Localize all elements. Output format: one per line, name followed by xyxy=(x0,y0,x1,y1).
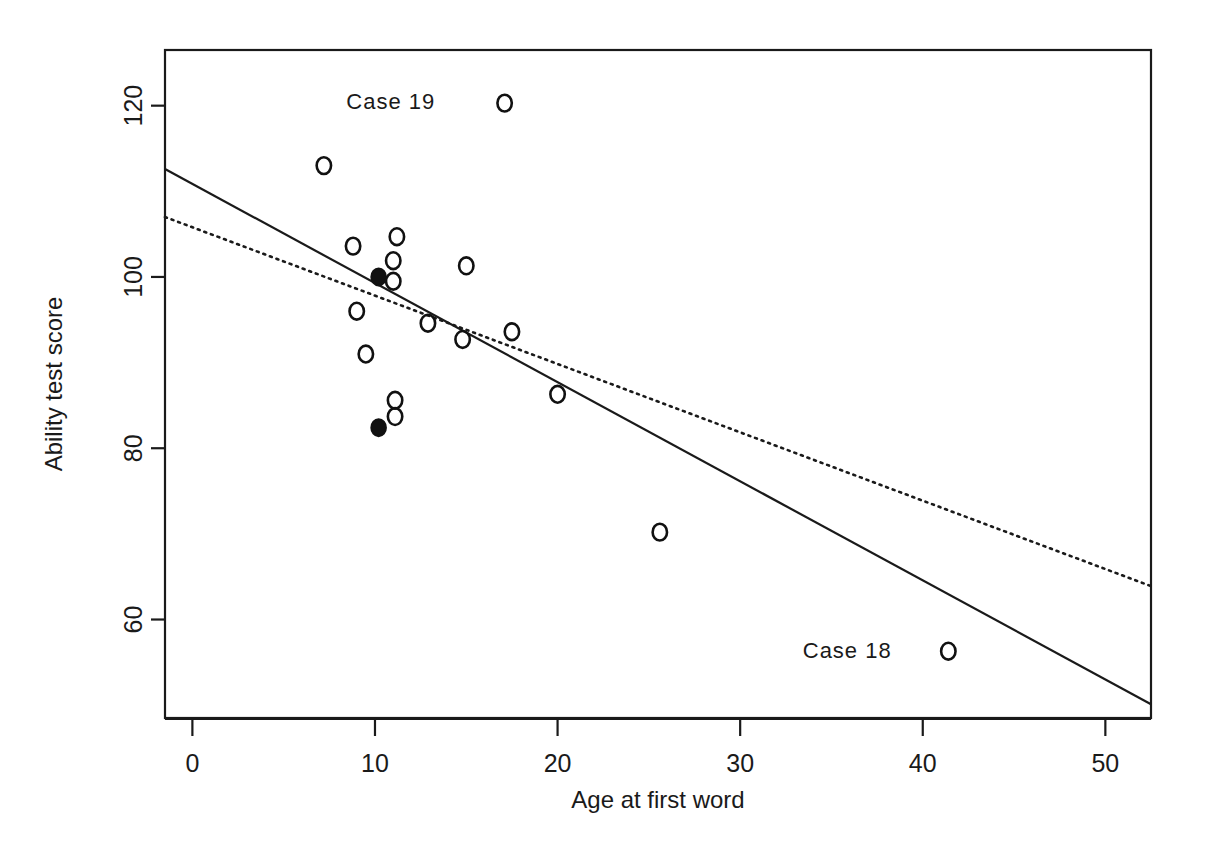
data-point-open xyxy=(386,252,400,269)
y-tick-label: 120 xyxy=(119,85,147,127)
regression-excluding-outliers xyxy=(165,217,1151,586)
data-point-filled xyxy=(371,269,385,286)
y-axis-title: Ability test score xyxy=(40,297,67,472)
data-point-open xyxy=(346,238,360,255)
data-point-open xyxy=(455,331,469,348)
scatter-plot-figure: 6080100120 01020304050 Case 19Case 18 Ag… xyxy=(0,0,1205,861)
plot-frame-box xyxy=(165,50,1151,718)
y-tick-label: 80 xyxy=(119,434,147,462)
regression-all-cases xyxy=(165,169,1151,704)
x-tick-label: 0 xyxy=(185,749,199,777)
x-axis-tick-labels: 01020304050 xyxy=(185,749,1119,777)
point-annotations: Case 19Case 18 xyxy=(346,89,891,664)
data-point-open xyxy=(390,228,404,245)
data-point-open xyxy=(388,392,402,409)
y-axis-ticks xyxy=(151,106,165,620)
data-point-open xyxy=(550,386,564,403)
y-tick-label: 60 xyxy=(119,606,147,634)
data-point-open xyxy=(941,643,955,660)
x-tick-label: 10 xyxy=(361,749,389,777)
x-tick-label: 50 xyxy=(1091,749,1119,777)
y-tick-label: 100 xyxy=(119,256,147,298)
x-tick-label: 30 xyxy=(726,749,754,777)
data-point-open xyxy=(317,157,331,174)
point-annotation-label: Case 18 xyxy=(803,638,892,663)
scatter-points xyxy=(317,95,956,660)
regression-lines xyxy=(165,169,1151,704)
data-point-open xyxy=(653,524,667,541)
x-axis-title: Age at first word xyxy=(571,786,744,813)
data-point-open xyxy=(388,408,402,425)
x-axis-ticks xyxy=(192,719,1105,736)
x-tick-label: 20 xyxy=(544,749,572,777)
data-point-open xyxy=(421,315,435,332)
data-point-open xyxy=(386,273,400,290)
data-point-open xyxy=(359,346,373,363)
data-point-filled xyxy=(371,419,385,436)
point-annotation-label: Case 19 xyxy=(346,89,435,114)
data-point-open xyxy=(505,323,519,340)
x-tick-label: 40 xyxy=(909,749,937,777)
plot-canvas: 6080100120 01020304050 Case 19Case 18 Ag… xyxy=(0,0,1205,861)
data-point-open xyxy=(497,95,511,112)
data-point-open xyxy=(350,303,364,320)
y-axis-tick-labels: 6080100120 xyxy=(119,85,147,634)
data-point-open xyxy=(459,257,473,274)
